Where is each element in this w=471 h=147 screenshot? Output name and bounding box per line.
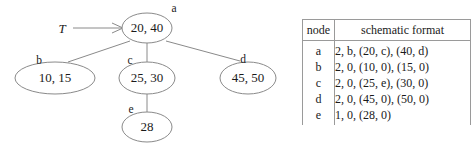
table-row: a 2, b, (20, c), (40, d) — [303, 41, 471, 60]
column-header-schematic-format: schematic format — [335, 20, 471, 41]
table-body: a 2, b, (20, c), (40, d) b 2, 0, (10, 0)… — [303, 41, 471, 126]
cell-schematic-format: 2, 0, (45, 0), (50, 0) — [335, 91, 471, 107]
cell-schematic-format: 1, 0, (28, 0) — [335, 107, 471, 125]
node-value-b: 10, 15 — [39, 70, 72, 85]
node-label-e: e — [128, 103, 133, 115]
column-header-node: node — [303, 20, 335, 41]
tree-node-d: 45, 50 d — [220, 53, 276, 94]
table-row: c 2, 0, (25, e), (30, 0) — [303, 75, 471, 91]
node-value-e: 28 — [141, 119, 154, 134]
table-header: node schematic format — [303, 20, 471, 41]
root-pointer-label: T — [58, 21, 66, 36]
cell-node: b — [303, 59, 335, 75]
node-label-b: b — [36, 54, 42, 66]
edge-a-d — [166, 41, 240, 61]
table-row: b 2, 0, (10, 0), (15, 0) — [303, 59, 471, 75]
schematic-format-table: node schematic format a 2, b, (20, c), (… — [302, 19, 471, 125]
cell-node: a — [303, 41, 335, 60]
table-row: e 1, 0, (28, 0) — [303, 107, 471, 125]
node-value-c: 25, 30 — [131, 70, 164, 85]
table-row: d 2, 0, (45, 0), (50, 0) — [303, 91, 471, 107]
node-label-d: d — [240, 53, 246, 65]
cell-node: e — [303, 107, 335, 125]
tree-node-a: 20, 40 a — [122, 2, 177, 43]
cell-schematic-format: 2, b, (20, c), (40, d) — [335, 41, 471, 60]
node-value-a: 20, 40 — [131, 20, 164, 35]
tree-node-b: 10, 15 b — [15, 54, 95, 94]
cell-node: c — [303, 75, 335, 91]
node-label-a: a — [171, 2, 176, 14]
node-label-c: c — [127, 54, 132, 66]
figure-root: T 20, 40 a 10, 15 b 25, 30 c 45, 50 d 28… — [0, 0, 471, 147]
tree-diagram: T 20, 40 a 10, 15 b 25, 30 c 45, 50 d 28… — [0, 0, 300, 147]
cell-schematic-format: 2, 0, (25, e), (30, 0) — [335, 75, 471, 91]
edge-a-b — [68, 41, 130, 62]
node-value-d: 45, 50 — [232, 70, 265, 85]
root-pointer: T — [58, 21, 123, 36]
cell-node: d — [303, 91, 335, 107]
cell-schematic-format: 2, 0, (10, 0), (15, 0) — [335, 59, 471, 75]
table-header-row: node schematic format — [303, 20, 471, 41]
